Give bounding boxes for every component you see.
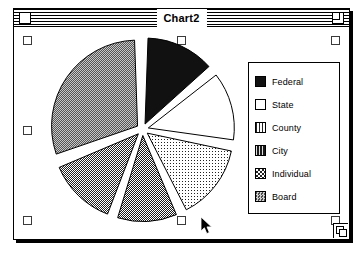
window-titlebar[interactable]: Chart2 — [14, 9, 349, 27]
zoom-box-icon[interactable] — [332, 12, 344, 24]
pie-chart[interactable] — [50, 37, 235, 222]
mouse-cursor — [201, 217, 214, 236]
legend-label-board: Board — [272, 192, 297, 202]
legend-item-individual[interactable]: Individual — [255, 162, 339, 185]
legend-item-board[interactable]: Board — [255, 185, 339, 208]
legend-swatch-county — [255, 122, 266, 133]
close-box-icon[interactable] — [19, 12, 31, 24]
screenshot-root: Chart2 — [0, 0, 364, 262]
legend-item-federal[interactable]: Federal — [255, 70, 339, 93]
legend-item-city[interactable]: City — [255, 139, 339, 162]
legend-item-state[interactable]: State — [255, 93, 339, 116]
legend-swatch-individual — [255, 168, 266, 179]
pie-svg — [50, 37, 235, 222]
window-title: Chart2 — [156, 9, 206, 27]
legend-swatch-federal — [255, 76, 266, 87]
legend-label-individual: Individual — [272, 169, 311, 179]
legend-label-federal: Federal — [272, 77, 303, 87]
chart-object[interactable]: Federal State County City — [20, 33, 342, 227]
legend-label-county: County — [272, 123, 301, 133]
legend-item-county[interactable]: County — [255, 116, 339, 139]
legend-label-state: State — [272, 100, 294, 110]
pie-slice-board[interactable] — [52, 40, 138, 154]
legend-swatch-board — [255, 191, 266, 202]
chart-legend[interactable]: Federal State County City — [248, 62, 340, 214]
grow-box-icon[interactable] — [333, 223, 348, 238]
chart-window: Chart2 — [13, 8, 350, 240]
arrow-pointer-icon — [201, 217, 214, 236]
legend-label-city: City — [272, 146, 288, 156]
window-content: Federal State County City — [14, 27, 349, 239]
legend-swatch-city — [255, 145, 266, 156]
legend-swatch-state — [255, 99, 266, 110]
